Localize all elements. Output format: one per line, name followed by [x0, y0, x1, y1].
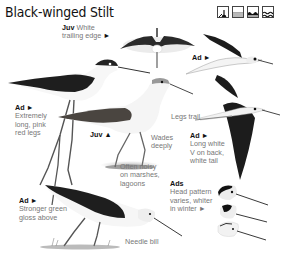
label-wades: Wades deeply: [151, 134, 173, 151]
label-ad-left: Ad ► Extremely long, pink red legs: [15, 104, 47, 138]
arrow-up-icon: ▲: [104, 130, 111, 139]
label-ad-bottom: Ad ► Stronger green gloss above: [19, 197, 67, 222]
label-juv-flight: Juv White trailing edge ►: [62, 24, 110, 41]
label-ad-flight-right: Ad ► Long white V on back, white tail: [190, 132, 225, 166]
juv-flight-illustration: [120, 28, 195, 68]
arrow-right-icon: ►: [103, 31, 110, 40]
label-legs-trail: Legs trail: [171, 113, 200, 121]
label-noisy: Often noisy on marshes, lagoons: [120, 163, 160, 188]
arrow-right-icon: ►: [204, 53, 211, 62]
ad-flight-top-illustration: [186, 34, 273, 98]
label-needle-bill: Needle bill: [125, 238, 159, 246]
label-ads-heads: Ads Head pattern varies, whiter in winte…: [170, 180, 212, 214]
label-ad-flight-top: Ad ►: [192, 54, 211, 62]
ad-heads-illustration: [218, 185, 268, 240]
label-juv-standing: Juv ▲: [90, 131, 112, 139]
